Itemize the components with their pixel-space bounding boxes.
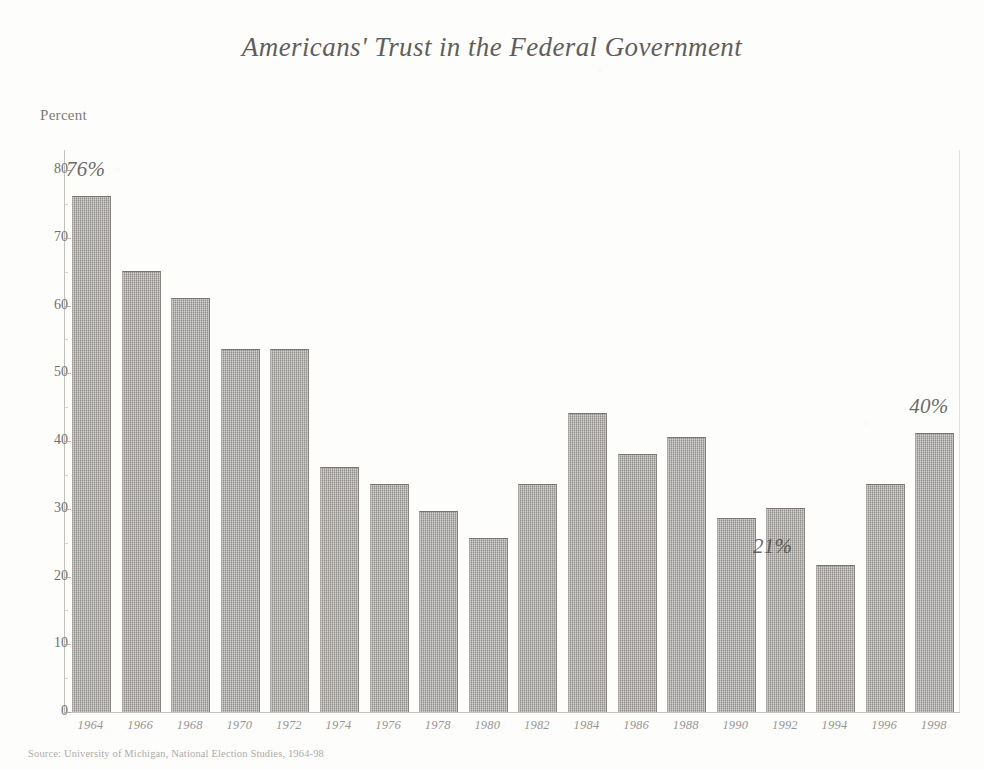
x-tick-label-1972: 1972 xyxy=(264,718,313,733)
x-tick-label-1974: 1974 xyxy=(314,718,363,733)
bar-1988 xyxy=(667,437,706,712)
x-axis-line xyxy=(64,712,960,713)
x-tick-label-1980: 1980 xyxy=(463,718,512,733)
x-tick-label-1986: 1986 xyxy=(612,718,661,733)
bar-1984 xyxy=(568,413,607,712)
x-tick-label-1982: 1982 xyxy=(512,718,561,733)
x-tick-label-1966: 1966 xyxy=(116,718,165,733)
x-tick-label-1990: 1990 xyxy=(711,718,760,733)
callout-1994: 21% xyxy=(753,534,792,559)
bar-1996 xyxy=(866,484,905,712)
y-tick-mark-0 xyxy=(64,712,71,713)
bar-chart-figure: Americans' Trust in the Federal Governme… xyxy=(0,0,984,770)
x-tick-label-1970: 1970 xyxy=(215,718,264,733)
x-tick-label-1994: 1994 xyxy=(810,718,859,733)
bar-1980 xyxy=(469,538,508,712)
bar-1994 xyxy=(816,565,855,712)
bar-1964 xyxy=(72,196,111,712)
x-tick-label-1988: 1988 xyxy=(661,718,710,733)
bar-1970 xyxy=(221,349,260,712)
bar-1974 xyxy=(320,467,359,712)
callout-1964: 76% xyxy=(66,157,105,182)
bar-1986 xyxy=(618,454,657,712)
x-tick-label-1996: 1996 xyxy=(860,718,909,733)
x-tick-label-1964: 1964 xyxy=(66,718,115,733)
bar-1982 xyxy=(518,484,557,712)
source-note: Source: University of Michigan, National… xyxy=(28,748,324,759)
bar-1978 xyxy=(419,511,458,712)
x-tick-label-1998: 1998 xyxy=(909,718,958,733)
x-tick-label-1978: 1978 xyxy=(413,718,462,733)
bar-1998 xyxy=(915,433,954,712)
x-tick-label-1984: 1984 xyxy=(562,718,611,733)
x-tick-label-1992: 1992 xyxy=(760,718,809,733)
bar-1976 xyxy=(370,484,409,712)
bar-1990 xyxy=(717,518,756,712)
bars-layer xyxy=(0,0,984,712)
bar-1972 xyxy=(270,349,309,712)
x-tick-label-1968: 1968 xyxy=(165,718,214,733)
x-tick-label-1976: 1976 xyxy=(364,718,413,733)
bar-1968 xyxy=(171,298,210,712)
bar-1966 xyxy=(122,271,161,712)
callout-1998: 40% xyxy=(909,394,948,419)
